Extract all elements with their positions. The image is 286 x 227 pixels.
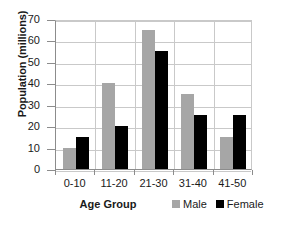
gridline-vertical (135, 21, 136, 169)
legend-swatch-male-icon (172, 200, 180, 208)
plot-area (55, 20, 252, 170)
y-axis-tick-label: 20 (10, 120, 40, 132)
gridline-vertical (174, 21, 175, 169)
bar-male-0-10 (63, 148, 76, 169)
x-axis-tick (134, 170, 135, 175)
x-axis-tick (252, 170, 253, 175)
bar-female-21-30 (155, 51, 168, 169)
bar-female-11-20 (115, 126, 128, 169)
x-axis-tick (173, 170, 174, 175)
y-axis-tick (47, 149, 55, 150)
bar-female-31-40 (194, 115, 207, 169)
bar-female-41-50 (233, 115, 246, 169)
y-axis-tick (47, 20, 55, 21)
legend-item-female: Female (216, 198, 264, 210)
y-axis-tick (47, 84, 55, 85)
bar-male-21-30 (142, 30, 155, 169)
x-axis-tick (55, 170, 56, 175)
bar-male-31-40 (181, 94, 194, 169)
gridline-horizontal (56, 21, 251, 22)
gridline-horizontal (56, 171, 251, 172)
x-axis-tick-label: 41-50 (208, 177, 256, 189)
y-axis-tick (47, 106, 55, 107)
bar-chart: Population (millions) 010203040506070 0-… (0, 0, 286, 227)
gridline-vertical (95, 21, 96, 169)
y-axis-tick-label: 50 (10, 56, 40, 68)
legend-label: Male (183, 198, 207, 210)
bar-male-41-50 (220, 137, 233, 169)
x-axis-tick (213, 170, 214, 175)
y-axis-tick (47, 63, 55, 64)
legend-swatch-female-icon (216, 200, 224, 208)
y-axis-tick-label: 60 (10, 34, 40, 46)
y-axis-tick-label: 40 (10, 77, 40, 89)
bar-male-11-20 (102, 83, 115, 169)
legend-label: Female (227, 198, 264, 210)
y-axis-tick-label: 0 (10, 163, 40, 175)
legend-item-male: Male (172, 198, 207, 210)
y-axis-tick-label: 70 (10, 13, 40, 25)
y-axis-tick (47, 127, 55, 128)
y-axis-tick-label: 10 (10, 142, 40, 154)
gridline-vertical (214, 21, 215, 169)
x-axis-tick (94, 170, 95, 175)
y-axis-tick-label: 30 (10, 99, 40, 111)
x-axis-title: Age Group (48, 198, 168, 210)
bar-female-0-10 (76, 137, 89, 169)
legend: MaleFemale (172, 198, 264, 210)
y-axis-tick (47, 41, 55, 42)
y-axis-tick (47, 170, 55, 171)
